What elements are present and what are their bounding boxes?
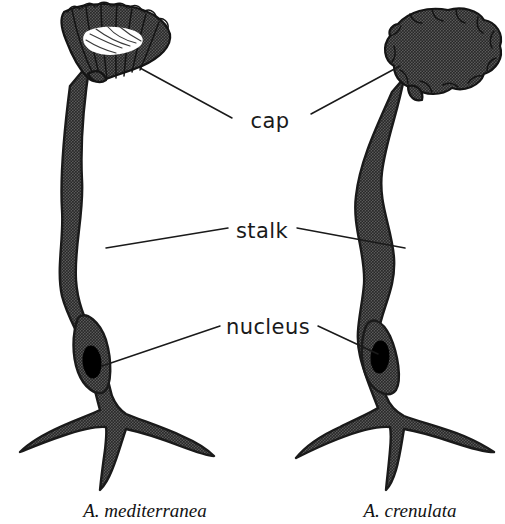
- label-stalk: stalk: [236, 219, 288, 243]
- species-name-left: A. mediterranea: [81, 500, 206, 521]
- label-cap: cap: [251, 109, 290, 133]
- species-name-right: A. crenulata: [361, 500, 456, 521]
- acetabularia-diagram: cap stalk nucleus A. mediterranea A. cre…: [0, 0, 505, 524]
- label-nucleus: nucleus: [226, 315, 310, 339]
